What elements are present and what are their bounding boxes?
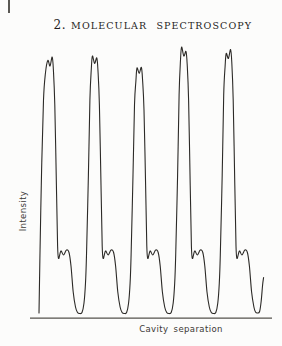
- intensity-curve: [39, 47, 264, 314]
- book-page: 2.MOLECULAR SPECTROSCOPY Intensity Cavit…: [0, 0, 282, 346]
- x-axis-label: Cavity separation: [139, 324, 223, 334]
- y-axis-label: Intensity: [18, 191, 28, 232]
- fringe-chart: [0, 0, 282, 346]
